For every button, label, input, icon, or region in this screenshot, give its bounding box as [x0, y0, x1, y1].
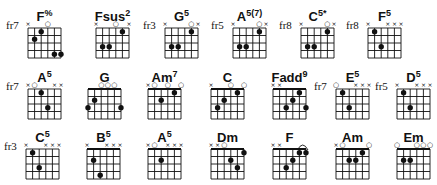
- finger-dot: [347, 158, 352, 163]
- finger-dot: [159, 98, 164, 103]
- finger-dot: [159, 158, 164, 163]
- open-string-icon: ○: [420, 141, 426, 149]
- muted-string-icon: ×: [215, 141, 220, 148]
- chord-name-superscript: 2: [125, 8, 130, 18]
- open-string-icon: ○: [178, 81, 184, 89]
- open-string-icon: ○: [340, 141, 346, 149]
- finger-dot: [290, 158, 295, 163]
- finger-dot: [244, 44, 249, 49]
- chord-name-superscript: 9: [303, 69, 308, 79]
- open-string-icon: ○: [32, 81, 38, 89]
- finger-dot: [32, 37, 37, 42]
- fret-position-label: fr5: [375, 80, 388, 92]
- finger-dot: [228, 158, 233, 163]
- chord-name-superscript: 5: [47, 69, 52, 79]
- finger-dot: [98, 173, 103, 178]
- finger-dot: [360, 150, 365, 155]
- fretboard-grid: ×○×: [160, 23, 203, 63]
- open-string-icon: ○: [394, 141, 400, 149]
- muted-string-icon: ×: [126, 20, 131, 27]
- chord-name-superscript: 5: [167, 129, 172, 139]
- finger-dot: [408, 105, 413, 110]
- finger-dot: [353, 158, 358, 163]
- muted-string-icon: ×: [360, 81, 365, 88]
- fret-position-label: fr8: [279, 19, 292, 31]
- fret-position-label: fr3: [143, 19, 156, 31]
- finger-dot: [120, 29, 125, 34]
- chord-name-base: A: [237, 9, 246, 24]
- fretboard-grid: ○×××: [331, 84, 374, 124]
- muted-string-icon: ×: [25, 20, 30, 27]
- finger-dot: [176, 44, 181, 49]
- chord-name-superscript: 7: [172, 69, 177, 79]
- finger-dot: [312, 44, 317, 49]
- finger-dot: [100, 44, 105, 49]
- open-string-icon: ○: [105, 81, 111, 89]
- fretboard-grid: ×○×: [296, 23, 339, 63]
- muted-string-icon: ×: [427, 81, 432, 88]
- muted-string-icon: ×: [162, 20, 167, 27]
- chord-name-superscript: 5: [45, 129, 50, 139]
- muted-string-icon: ×: [111, 141, 116, 148]
- finger-dot: [340, 90, 345, 95]
- muted-string-icon: ×: [117, 141, 122, 148]
- muted-string-icon: ×: [277, 81, 282, 88]
- muted-string-icon: ×: [145, 141, 150, 148]
- finger-dot: [45, 105, 50, 110]
- fretboard-grid: ×○×××: [143, 144, 186, 184]
- finger-dot: [347, 105, 352, 110]
- fretboard-grid: ○○○○: [392, 144, 435, 184]
- finger-dot: [235, 90, 240, 95]
- chord-name-superscript: %: [44, 8, 52, 18]
- finger-dot: [303, 105, 308, 110]
- chord-name-superscript: 5*: [318, 8, 327, 18]
- open-string-icon: ○: [228, 81, 234, 89]
- muted-string-icon: ×: [230, 20, 235, 27]
- finger-dot: [408, 158, 413, 163]
- fret-position-label: fr5: [211, 19, 224, 31]
- fretboard-grid: ×○××: [23, 84, 66, 124]
- finger-dot: [92, 98, 97, 103]
- muted-string-icon: ×: [23, 141, 28, 148]
- open-string-icon: ○: [256, 20, 262, 28]
- fretboard-grid: ××××: [363, 23, 406, 63]
- open-string-icon: ○: [152, 141, 158, 149]
- chord-name-base: F: [286, 130, 294, 145]
- muted-string-icon: ×: [270, 141, 275, 148]
- fretboard-grid: ××××: [392, 84, 435, 124]
- muted-string-icon: ×: [333, 141, 338, 148]
- open-string-icon: ○: [98, 81, 104, 89]
- fretboard-grid: ×○: [23, 23, 66, 63]
- muted-string-icon: ×: [145, 81, 150, 88]
- finger-dot: [85, 105, 90, 110]
- finger-dot: [303, 150, 308, 155]
- fretboard-grid: ××○: [206, 144, 249, 184]
- muted-string-icon: ×: [195, 20, 200, 27]
- muted-string-icon: ×: [52, 81, 57, 88]
- chord-name-base: G: [174, 9, 184, 24]
- fretboard-grid: ××: [268, 84, 311, 124]
- fret-position-label: fr7: [314, 80, 327, 92]
- muted-string-icon: ×: [208, 81, 213, 88]
- muted-string-icon: ×: [263, 20, 268, 27]
- muted-string-icon: ×: [165, 141, 170, 148]
- muted-string-icon: ×: [172, 141, 177, 148]
- open-string-icon: ○: [165, 81, 171, 89]
- fretboard-grid: ××: [268, 144, 311, 184]
- muted-string-icon: ×: [178, 141, 183, 148]
- muted-string-icon: ×: [331, 20, 336, 27]
- muted-string-icon: ×: [392, 20, 397, 27]
- open-string-icon: ○: [333, 81, 339, 89]
- finger-dot: [305, 44, 310, 49]
- finger-dot: [222, 98, 227, 103]
- finger-dot: [284, 105, 289, 110]
- open-string-icon: ○: [427, 141, 433, 149]
- chord-name-superscript: 5: [184, 8, 189, 18]
- finger-dot: [169, 44, 174, 49]
- open-string-icon: ○: [414, 141, 420, 149]
- finger-dot: [91, 158, 96, 163]
- muted-string-icon: ×: [270, 81, 275, 88]
- muted-string-icon: ×: [208, 141, 213, 148]
- fretboard-grid: ○○○: [83, 84, 126, 124]
- muted-string-icon: ×: [93, 20, 98, 27]
